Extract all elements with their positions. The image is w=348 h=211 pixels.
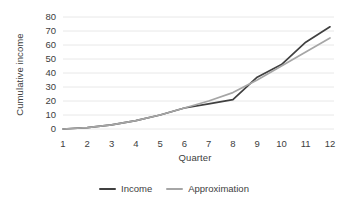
legend-label: Income — [121, 183, 152, 194]
x-tick-label: 5 — [148, 138, 172, 149]
x-tick-label: 1 — [51, 138, 75, 149]
x-tick-label: 8 — [221, 138, 245, 149]
x-tick-label: 10 — [269, 138, 293, 149]
x-tick-label: 6 — [172, 138, 196, 149]
legend-entry-approximation[interactable]: Approximation — [166, 183, 249, 194]
y-tick-label: 30 — [32, 81, 56, 92]
data-series-group — [63, 27, 330, 129]
gridlines — [63, 17, 334, 129]
y-tick-label: 40 — [32, 67, 56, 78]
series-line-income — [63, 27, 330, 129]
chart-legend: IncomeApproximation — [0, 183, 348, 194]
legend-entry-income[interactable]: Income — [99, 183, 152, 194]
y-axis-title: Cumulative income — [14, 15, 25, 135]
x-tick-label: 7 — [197, 138, 221, 149]
legend-line-swatch-icon — [166, 188, 183, 190]
x-tick-label: 3 — [100, 138, 124, 149]
y-tick-label: 60 — [32, 39, 56, 50]
x-tick-label: 2 — [75, 138, 99, 149]
y-tick-label: 20 — [32, 95, 56, 106]
y-tick-label: 50 — [32, 53, 56, 64]
y-tick-label: 10 — [32, 109, 56, 120]
x-tick-label: 4 — [124, 138, 148, 149]
legend-label: Approximation — [188, 183, 249, 194]
x-axis-title: Quarter — [50, 152, 340, 163]
line-chart: Cumulative income Quarter 01020304050607… — [0, 0, 348, 211]
x-tick-label: 12 — [318, 138, 342, 149]
y-tick-label: 70 — [32, 25, 56, 36]
y-tick-label: 80 — [32, 11, 56, 22]
legend-line-swatch-icon — [99, 188, 116, 190]
x-tick-label: 11 — [294, 138, 318, 149]
x-tick-label: 9 — [245, 138, 269, 149]
y-tick-label: 0 — [32, 123, 56, 134]
